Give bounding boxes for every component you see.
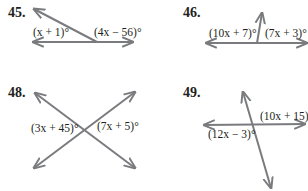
problem-number-46: 46.: [183, 5, 201, 21]
angle-label: (7x + 5)°: [97, 120, 139, 132]
angle-label: (7x + 3)°: [265, 27, 307, 39]
fig49-horizontal-line: [204, 124, 305, 125]
problem-number-48: 48.: [8, 85, 26, 101]
angle-label: (x + 1)°: [33, 26, 69, 38]
angle-label: (3x + 45)°: [31, 122, 79, 134]
angle-label: (10x + 7)°: [209, 27, 257, 39]
angle-label: (10x + 15)°: [260, 110, 308, 122]
problem-number-49: 49.: [183, 85, 201, 101]
angle-label: (4x − 56)°: [94, 26, 142, 38]
fig49-transversal: [243, 92, 271, 188]
angle-label: (12x − 3)°: [208, 128, 256, 140]
problem-number-45: 45.: [8, 5, 26, 21]
fig46-ray: [257, 13, 262, 43]
